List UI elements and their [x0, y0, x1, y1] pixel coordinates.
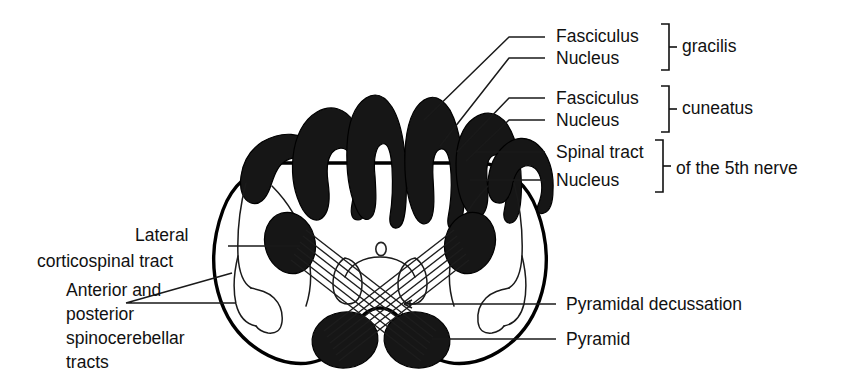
label-spinal-tract-5th: Spinal tract [556, 142, 644, 162]
label-lateral: Lateral [135, 225, 189, 245]
label-spinocerebellar: spinocerebellar [66, 328, 185, 348]
bracket-fifth-nerve [655, 140, 663, 192]
label-posterior: posterior [66, 304, 134, 324]
label-tracts: tracts [66, 352, 109, 372]
bracket-gracilis [661, 24, 669, 70]
label-fasciculus-cuneatus: Fasciculus [556, 88, 639, 108]
label-nucleus-spinal-5th: Nucleus [556, 170, 619, 190]
label-nucleus-cuneatus: Nucleus [556, 110, 619, 130]
medulla-cross-section-figure: Transverse section of the medulla oblong… [0, 0, 850, 392]
label-nucleus-gracilis: Nucleus [556, 48, 619, 68]
right-label-group: Fasciculus Nucleus Fasciculus Nucleus Sp… [556, 26, 742, 349]
left-label-group: Lateral corticospinal tract Anterior and… [37, 225, 189, 372]
label-anterior-and: Anterior and [66, 280, 161, 300]
label-pyramidal-decussation: Pyramidal decussation [566, 294, 742, 314]
bracket-cuneatus [661, 86, 669, 132]
brace-group: gracilis cuneatus of the 5th nerve [655, 24, 798, 192]
label-pyramid: Pyramid [566, 329, 630, 349]
label-fasciculus-gracilis: Fasciculus [556, 26, 639, 46]
label-corticospinal-tract: corticospinal tract [37, 251, 173, 271]
label-gracilis: gracilis [682, 36, 737, 56]
label-cuneatus: cuneatus [682, 98, 753, 118]
anatomy-drawing [214, 95, 553, 372]
label-of-the-5th-nerve: of the 5th nerve [676, 158, 798, 178]
